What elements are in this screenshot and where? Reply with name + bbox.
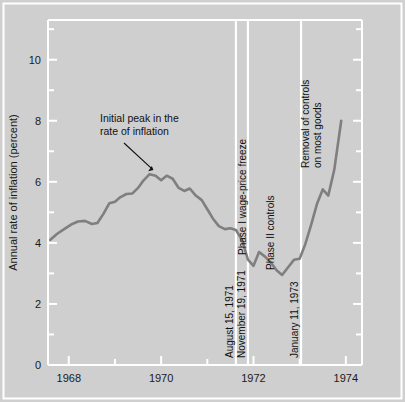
x-tick-label: 1972 — [241, 372, 265, 384]
annotation-initial-peak-line-1: rate of inflation — [100, 125, 169, 137]
y-tick-label: 0 — [35, 359, 41, 371]
y-axis-title: Annual rate of inflation (percent) — [7, 114, 19, 271]
period-label-phase-2: Phase II controls — [265, 196, 276, 270]
x-tick-label: 1968 — [57, 372, 81, 384]
chart-canvas: 0246810Annual rate of inflation (percent… — [0, 0, 405, 402]
y-tick-label: 8 — [35, 115, 41, 127]
y-tick-label: 2 — [35, 298, 41, 310]
annotation-initial-peak-line-0: Initial peak in the — [100, 112, 179, 124]
event-label-jan-1973: January 11, 1973 — [289, 281, 300, 358]
annotation-removal-line-0: Removal of controls — [300, 80, 311, 168]
x-tick-label: 1974 — [334, 372, 358, 384]
inflation-chart-figure: 0246810Annual rate of inflation (percent… — [0, 0, 405, 402]
event-label-aug-1971: August 15, 1971 — [224, 285, 235, 358]
annotation-removal-line-1: on most goods — [312, 102, 323, 168]
y-tick-label: 6 — [35, 176, 41, 188]
x-tick-label: 1970 — [149, 372, 173, 384]
y-tick-label: 10 — [29, 54, 41, 66]
plot-area-background — [48, 20, 362, 365]
period-label-phase-1: Phase I wage-price freeze — [237, 138, 248, 255]
y-tick-label: 4 — [35, 237, 41, 249]
event-label-nov-1971: November 19, 1971 — [236, 270, 247, 358]
